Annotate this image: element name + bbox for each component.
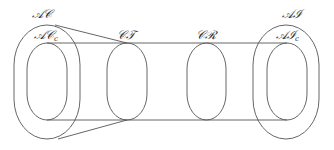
label-ac: 𝒜𝒞 xyxy=(32,8,52,20)
label-ai-c: 𝒜ℐc xyxy=(276,29,299,43)
set-ai-c-inner xyxy=(267,43,307,120)
set-ct xyxy=(107,43,147,120)
label-ac-c-sub: c xyxy=(54,35,58,43)
label-ct: 𝒞𝒯 xyxy=(117,29,135,41)
set-diagram: 𝒜𝒞 𝒜𝒞c 𝒞𝒯 𝒞ℛ 𝒜ℐ 𝒜ℐc xyxy=(0,0,334,150)
set-cr xyxy=(187,43,226,120)
label-ac-c: 𝒜𝒞c xyxy=(34,29,58,43)
label-cr: 𝒞ℛ xyxy=(196,29,216,41)
label-ai-c-main: 𝒜ℐ xyxy=(276,28,295,42)
diagram-canvas xyxy=(0,0,334,150)
set-ac-c-inner xyxy=(27,43,67,120)
label-ac-c-main: 𝒜𝒞 xyxy=(34,28,54,42)
label-ai: 𝒜ℐ xyxy=(282,8,301,20)
label-ai-c-sub: c xyxy=(295,35,299,43)
